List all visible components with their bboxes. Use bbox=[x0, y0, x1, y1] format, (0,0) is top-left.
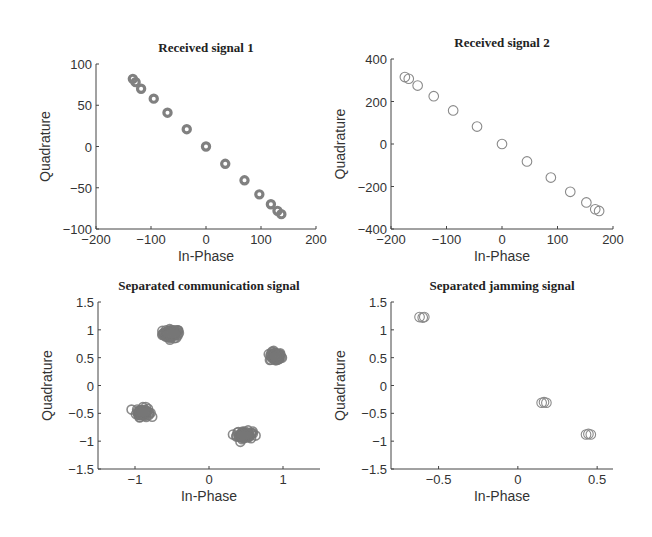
marker-circle bbox=[138, 85, 145, 92]
marker-circle bbox=[429, 91, 439, 101]
marker-circle bbox=[497, 139, 507, 149]
y-tick-label: 0 bbox=[380, 137, 387, 152]
data-points bbox=[415, 312, 596, 439]
data-points bbox=[129, 75, 285, 217]
y-tick-label: 1.5 bbox=[76, 295, 94, 310]
received-signal-1-axes: Received signal 1−200−1000100200−100−500… bbox=[37, 40, 327, 264]
y-axis-label: Quadrature bbox=[37, 111, 53, 182]
cluster-fill bbox=[136, 408, 150, 417]
marker-circle bbox=[222, 160, 229, 167]
y-tick-label: −1.5 bbox=[68, 462, 94, 477]
y-tick-label: 1 bbox=[87, 323, 94, 338]
separated-communication-signal-axes: Separated communication signal−101−1.5−1… bbox=[39, 278, 320, 504]
x-tick-label: 200 bbox=[305, 232, 327, 247]
y-tick-label: −50 bbox=[70, 181, 92, 196]
x-tick-label: 0 bbox=[514, 472, 521, 487]
y-tick-label: 0.5 bbox=[369, 351, 387, 366]
y-tick-label: −0.5 bbox=[68, 406, 94, 421]
x-tick-label: 1 bbox=[279, 472, 286, 487]
marker-circle bbox=[546, 173, 556, 183]
x-axis-label: In-Phase bbox=[474, 488, 530, 504]
point-cluster bbox=[158, 325, 184, 344]
marker-circle bbox=[582, 198, 592, 208]
marker-circle bbox=[565, 187, 575, 197]
x-tick-label: 200 bbox=[602, 232, 624, 247]
x-tick-label: −100 bbox=[432, 232, 461, 247]
y-axis-label: Quadrature bbox=[39, 350, 55, 421]
y-tick-label: 100 bbox=[70, 57, 92, 72]
y-tick-label: 0 bbox=[380, 379, 387, 394]
y-tick-label: −200 bbox=[358, 180, 387, 195]
y-tick-label: 0.5 bbox=[76, 351, 94, 366]
y-tick-label: 50 bbox=[78, 98, 92, 113]
data-points bbox=[400, 72, 604, 215]
y-tick-label: 0 bbox=[85, 140, 92, 155]
x-tick-label: 0.5 bbox=[588, 472, 606, 487]
cluster-fill bbox=[236, 431, 252, 439]
y-tick-label: 1 bbox=[380, 323, 387, 338]
x-tick-label: 0 bbox=[205, 472, 212, 487]
marker-circle bbox=[267, 201, 274, 208]
y-tick-label: 400 bbox=[365, 52, 387, 67]
marker-circle bbox=[164, 109, 171, 116]
marker-circle bbox=[472, 122, 482, 132]
marker-circle bbox=[183, 126, 190, 133]
point-cluster bbox=[127, 403, 157, 422]
x-tick-label: 0 bbox=[202, 232, 209, 247]
y-tick-label: 200 bbox=[365, 95, 387, 110]
data-points bbox=[127, 325, 286, 447]
marker-circle bbox=[594, 206, 604, 216]
marker-circle bbox=[448, 106, 458, 116]
marker-circle bbox=[404, 74, 414, 84]
x-tick-label: −1 bbox=[128, 472, 143, 487]
chart-title: Received signal 1 bbox=[158, 40, 253, 55]
chart-title: Received signal 2 bbox=[454, 35, 549, 50]
x-axis-label: In-Phase bbox=[181, 488, 237, 504]
x-axis-label: In-Phase bbox=[474, 248, 530, 264]
marker-circle bbox=[150, 95, 157, 102]
point-cluster bbox=[228, 426, 260, 446]
axis-lines bbox=[391, 59, 613, 229]
marker-circle bbox=[241, 177, 248, 184]
axis-lines bbox=[98, 302, 320, 469]
cluster-fill bbox=[162, 329, 180, 338]
x-tick-label: 100 bbox=[250, 232, 272, 247]
y-tick-label: −0.5 bbox=[361, 406, 387, 421]
y-tick-label: −100 bbox=[63, 222, 92, 237]
y-tick-label: −1.5 bbox=[361, 462, 387, 477]
y-axis-label: Quadrature bbox=[332, 350, 348, 421]
x-tick-label: −100 bbox=[136, 232, 165, 247]
x-tick-label: 100 bbox=[547, 232, 569, 247]
y-tick-label: −400 bbox=[358, 222, 387, 237]
y-axis-label: Quadrature bbox=[332, 108, 348, 179]
axis-lines bbox=[391, 302, 613, 469]
figure: Received signal 1−200−1000100200−100−500… bbox=[0, 0, 652, 537]
y-tick-label: −1 bbox=[79, 434, 94, 449]
x-axis-label: In-Phase bbox=[178, 248, 234, 264]
point-cluster bbox=[264, 346, 286, 364]
y-tick-label: 1.5 bbox=[369, 295, 387, 310]
x-tick-label: −0.5 bbox=[426, 472, 452, 487]
y-tick-label: 0 bbox=[87, 379, 94, 394]
y-tick-label: −1 bbox=[372, 434, 387, 449]
marker-circle bbox=[202, 143, 209, 150]
received-signal-2-axes: Received signal 2−200−1000100200−400−200… bbox=[332, 35, 624, 264]
separated-jamming-signal-axes: Separated jamming signal−0.500.5−1.5−1−0… bbox=[332, 278, 613, 504]
x-tick-label: 0 bbox=[498, 232, 505, 247]
marker-circle bbox=[256, 191, 263, 198]
cluster-fill bbox=[270, 352, 282, 361]
marker-circle bbox=[413, 81, 423, 91]
chart-title: Separated jamming signal bbox=[429, 278, 575, 293]
marker-circle bbox=[522, 157, 532, 167]
chart-title: Separated communication signal bbox=[118, 278, 300, 293]
axis-lines bbox=[96, 64, 316, 229]
